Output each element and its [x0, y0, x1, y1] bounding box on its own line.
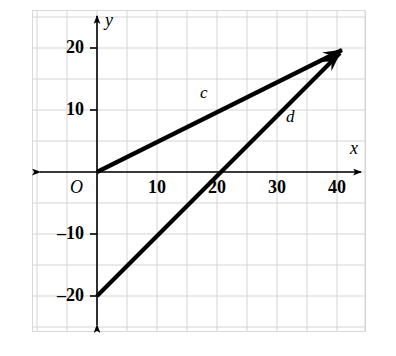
line-label-c: c — [200, 84, 208, 101]
graph-screenshot: 20 10 –10 –20 O 10 20 30 40 x y c d — [0, 0, 396, 356]
origin-label: O — [70, 178, 83, 196]
y-axis-label: y — [105, 11, 113, 29]
line-c — [97, 50, 342, 172]
y-tick-label-neg10: –10 — [26, 224, 84, 242]
line-label-d: d — [286, 108, 295, 125]
x-tick-label-10: 10 — [137, 178, 177, 196]
y-tick-label-20: 20 — [32, 38, 84, 56]
x-axis-label: x — [350, 139, 358, 157]
x-tick-label-20: 20 — [197, 178, 237, 196]
line-d — [97, 53, 340, 296]
y-tick-label-neg20: –20 — [26, 286, 84, 304]
x-tick-label-40: 40 — [317, 178, 357, 196]
y-tick-label-10: 10 — [32, 100, 84, 118]
x-tick-label-30: 30 — [257, 178, 297, 196]
grid-lines — [33, 11, 365, 331]
